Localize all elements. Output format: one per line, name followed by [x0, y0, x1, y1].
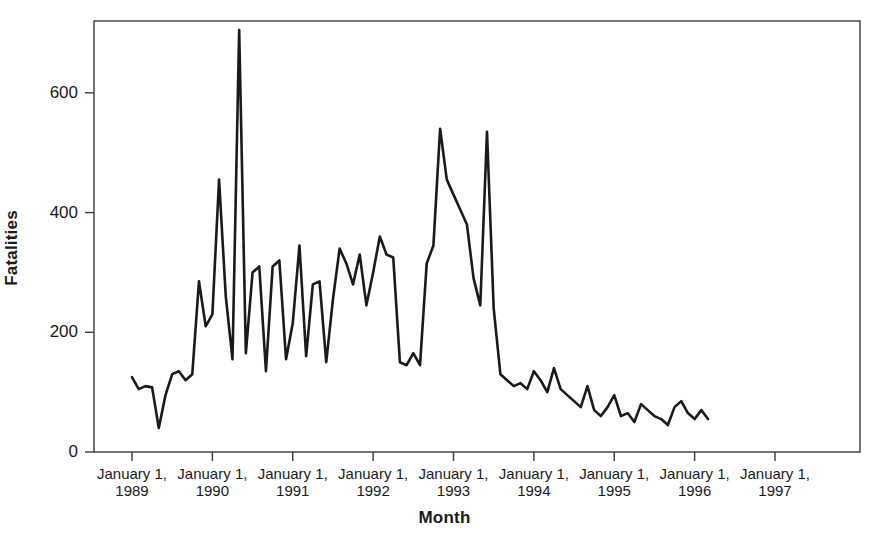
x-tick-label-date: January 1,	[579, 465, 649, 482]
x-tick-label-year: 1997	[729, 482, 821, 499]
y-axis-ticks	[85, 93, 94, 452]
x-axis-ticks	[132, 452, 775, 461]
x-tick-label-year: 1995	[568, 482, 660, 499]
x-tick-label: January 1,1995	[568, 465, 660, 499]
plot-frame-border	[94, 21, 860, 452]
x-tick-label-date: January 1,	[177, 465, 247, 482]
x-tick-label-date: January 1,	[740, 465, 810, 482]
x-tick-label-date: January 1,	[418, 465, 488, 482]
x-tick-label-year: 1989	[86, 482, 178, 499]
chart-plot-area	[0, 0, 889, 545]
x-tick-label-date: January 1,	[338, 465, 408, 482]
figure-container: 0200400600 January 1,1989January 1,1990J…	[0, 0, 889, 545]
x-tick-label-year: 1996	[649, 482, 741, 499]
fatalities-line-series	[132, 30, 708, 428]
x-tick-label-date: January 1,	[660, 465, 730, 482]
y-tick-label: 600	[16, 84, 78, 101]
y-tick-label: 200	[16, 323, 78, 340]
x-tick-label-date: January 1,	[258, 465, 328, 482]
y-tick-label: 400	[16, 204, 78, 221]
x-tick-label-year: 1992	[327, 482, 419, 499]
x-tick-label: January 1,1990	[166, 465, 258, 499]
y-axis-title: Fatalities	[2, 168, 22, 328]
x-tick-label-year: 1991	[247, 482, 339, 499]
y-tick-label: 0	[16, 443, 78, 460]
x-tick-label: January 1,1989	[86, 465, 178, 499]
x-tick-label-date: January 1,	[499, 465, 569, 482]
x-tick-label: January 1,1993	[408, 465, 500, 499]
x-tick-label: January 1,1997	[729, 465, 821, 499]
x-tick-label: January 1,1996	[649, 465, 741, 499]
x-axis-title: Month	[0, 508, 889, 528]
x-tick-label-year: 1993	[408, 482, 500, 499]
x-tick-label: January 1,1994	[488, 465, 580, 499]
x-tick-label-year: 1990	[166, 482, 258, 499]
x-tick-label-year: 1994	[488, 482, 580, 499]
x-tick-label: January 1,1992	[327, 465, 419, 499]
x-tick-label-date: January 1,	[97, 465, 167, 482]
x-tick-label: January 1,1991	[247, 465, 339, 499]
